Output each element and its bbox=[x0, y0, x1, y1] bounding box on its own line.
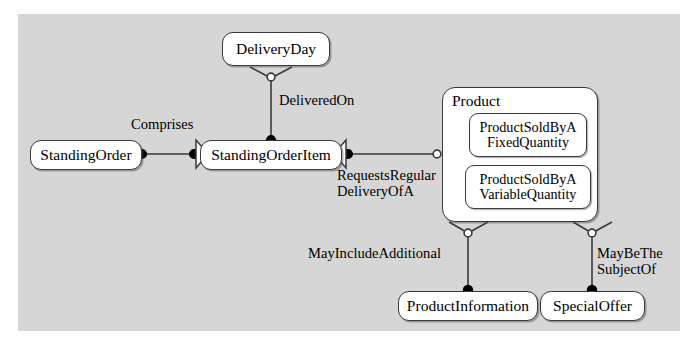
node-product-sold-by-fixed-quantity[interactable]: ProductSoldByA FixedQuantity bbox=[469, 113, 587, 157]
edge-label-comprises: Comprises bbox=[131, 117, 193, 133]
node-standing-order-item-label: StandingOrderItem bbox=[205, 147, 337, 163]
edge-label-may-be-the-subject-of: MayBeThe SubjectOf bbox=[597, 246, 663, 277]
edge-label-may-include-additional: MayIncludeAdditional bbox=[308, 246, 441, 262]
edge-label-delivered-on: DeliveredOn bbox=[279, 93, 354, 109]
node-special-offer[interactable]: SpecialOffer bbox=[540, 291, 645, 321]
node-delivery-day[interactable]: DeliveryDay bbox=[222, 32, 330, 66]
connector-circle-deliveryday bbox=[267, 73, 275, 81]
node-product-sold-by-variable-quantity[interactable]: ProductSoldByA VariableQuantity bbox=[465, 165, 591, 209]
node-standing-order-item[interactable]: StandingOrderItem bbox=[200, 140, 342, 170]
node-product-label: Product bbox=[452, 92, 500, 110]
node-product[interactable]: Product ProductSoldByA FixedQuantity Pro… bbox=[442, 87, 598, 222]
node-standing-order-label: StandingOrder bbox=[34, 147, 137, 163]
connector-circle-product-bottom-left bbox=[464, 229, 472, 237]
node-standing-order[interactable]: StandingOrder bbox=[30, 140, 142, 170]
node-product-sold-by-fixed-quantity-label: ProductSoldByA FixedQuantity bbox=[480, 120, 577, 150]
connector-circle-product-bottom-right bbox=[588, 229, 596, 237]
edge-label-requests-regular-delivery: RequestsRegular DeliveryOfA bbox=[337, 168, 436, 199]
node-special-offer-label: SpecialOffer bbox=[547, 298, 638, 314]
node-product-information-label: ProductInformation bbox=[401, 298, 535, 314]
diagram-canvas: DeliveryDay StandingOrder StandingOrderI… bbox=[0, 0, 696, 354]
node-product-information[interactable]: ProductInformation bbox=[398, 291, 538, 321]
node-delivery-day-label: DeliveryDay bbox=[230, 41, 322, 57]
connector-circle-product-left bbox=[433, 150, 441, 158]
node-product-sold-by-variable-quantity-label: ProductSoldByA VariableQuantity bbox=[480, 172, 577, 202]
